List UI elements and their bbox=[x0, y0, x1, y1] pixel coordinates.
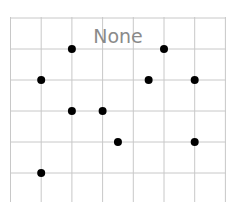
data-point bbox=[191, 76, 199, 84]
scatter-chart: None bbox=[0, 0, 226, 202]
data-point bbox=[68, 107, 76, 115]
data-point bbox=[145, 76, 153, 84]
chart-title: None bbox=[93, 25, 143, 47]
data-point bbox=[68, 45, 76, 53]
data-point bbox=[160, 45, 168, 53]
data-point bbox=[191, 138, 199, 146]
data-point bbox=[37, 76, 45, 84]
data-point bbox=[114, 138, 122, 146]
data-point bbox=[37, 169, 45, 177]
data-point bbox=[99, 107, 107, 115]
